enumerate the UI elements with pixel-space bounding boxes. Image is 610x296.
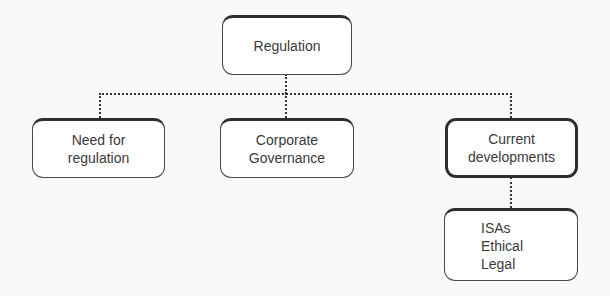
node-label-line: Current xyxy=(488,130,535,148)
node-label-line: developments xyxy=(468,148,555,166)
node-label-line: Corporate xyxy=(256,131,318,149)
node-need-for-regulation: Need for regulation xyxy=(32,118,165,178)
node-isas-ethical-legal: ISAs Ethical Legal xyxy=(444,208,578,281)
connector-horizontal-bus xyxy=(99,93,512,95)
node-label-line: Need for xyxy=(72,131,126,149)
connector-to-current-developments xyxy=(510,93,512,118)
node-corporate-governance: Corporate Governance xyxy=(220,118,354,178)
node-regulation-label: Regulation xyxy=(254,37,321,55)
node-label-line: Governance xyxy=(249,149,325,167)
connector-root-down xyxy=(285,74,287,94)
node-current-developments: Current developments xyxy=(445,118,578,178)
connector-to-corporate-governance xyxy=(285,93,287,118)
node-label-line: Ethical xyxy=(481,237,523,255)
node-label-line: ISAs xyxy=(481,219,511,237)
node-regulation: Regulation xyxy=(222,15,352,75)
connector-to-isas-ethical-legal xyxy=(510,177,512,208)
node-label-line: Legal xyxy=(481,255,515,273)
connector-to-need-for-regulation xyxy=(99,93,101,118)
node-label-line: regulation xyxy=(68,149,130,167)
